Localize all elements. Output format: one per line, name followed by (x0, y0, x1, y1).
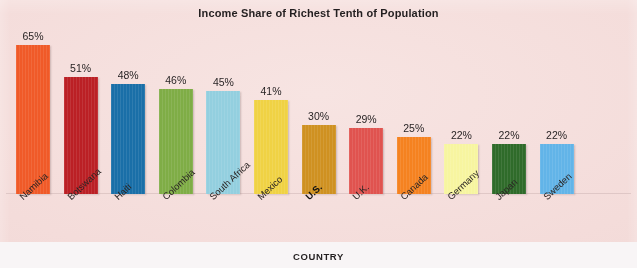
bar-value-label: 41% (248, 85, 294, 97)
bar-group: 22% (492, 22, 526, 194)
bar-group: 29% (349, 22, 383, 194)
bar-value-label: 22% (438, 129, 484, 141)
bar-group: 22% (540, 22, 574, 194)
bar-texture (111, 84, 145, 194)
bar-value-label: 25% (391, 122, 437, 134)
bar-value-label: 51% (58, 62, 104, 74)
bar-value-label: 46% (153, 74, 199, 86)
bar-haiti[interactable] (111, 84, 145, 194)
bar-value-label: 30% (296, 110, 342, 122)
bar-value-label: 29% (343, 113, 389, 125)
bar-group: 30% (302, 22, 336, 194)
chart-title: Income Share of Richest Tenth of Populat… (0, 7, 637, 19)
bar-value-label: 22% (534, 129, 580, 141)
bar-value-label: 48% (105, 69, 151, 81)
bar-group: 41% (254, 22, 288, 194)
category-axis-labels: NamibiaBotswanaHaitiColombiaSouth Africa… (0, 194, 637, 244)
bar-value-label: 45% (200, 76, 246, 88)
bar-group: 25% (397, 22, 431, 194)
bar-group: 65% (16, 22, 50, 194)
bar-value-label: 65% (10, 30, 56, 42)
bar-value-label: 22% (486, 129, 532, 141)
x-axis-title: COUNTRY (0, 251, 637, 262)
bar-group: 48% (111, 22, 145, 194)
bar-chart: Income Share of Richest Tenth of Populat… (0, 0, 637, 268)
